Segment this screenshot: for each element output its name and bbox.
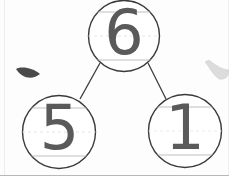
connector-line-left xyxy=(80,63,100,99)
left-part-digit: 5 xyxy=(22,97,97,159)
whole-digit: 6 xyxy=(88,2,160,64)
crescent-mark-left-icon xyxy=(16,68,40,78)
connector-line-right xyxy=(148,63,166,99)
number-bond-worksheet: 6 5 1 xyxy=(0,0,229,176)
right-part-digit: 1 xyxy=(148,97,222,159)
crescent-mark-right-icon xyxy=(205,60,229,79)
